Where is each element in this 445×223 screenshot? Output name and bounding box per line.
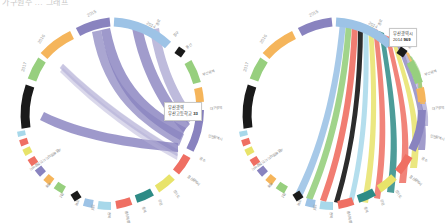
region-label: 충북 (141, 206, 148, 214)
year-label-2015: 2015 (308, 9, 319, 18)
tooltip-left-line2: 부산고등학교 33 (168, 111, 198, 117)
region-label: 충남특별 (124, 210, 131, 223)
region-label: 제주 (44, 181, 52, 190)
tooltip-right-line2: 2014 969 (393, 37, 413, 43)
tooltip-right: 부산광역시 2014 969 (389, 28, 417, 47)
chord-chart-left[interactable]: 2015 2014 2016 2017 종로중구용산부산광역대구광역인천광역시광… (0, 0, 223, 223)
region-label: 강원 (379, 199, 386, 207)
chord-chart-right[interactable]: 2015 2014 2016 2017 종로중구용산부산광역대구광역인천광역시광… (222, 0, 445, 223)
region-label: 중구 (173, 30, 181, 38)
tooltip-left: 부산광역 부산고등학교 33 (164, 102, 202, 121)
region-label: 경남 (58, 191, 66, 200)
region-label: 충북 (363, 206, 370, 214)
region-label: 경기도 (172, 189, 182, 200)
region-label: 광주 (420, 156, 429, 164)
region-label: 울산광역시 (187, 174, 202, 187)
region-label: 인천광역시 (429, 133, 445, 141)
region-label: 부산광역 (424, 68, 437, 77)
region-label: 용산 (185, 42, 194, 50)
year-label-2017: 2017 (20, 61, 28, 72)
region-label: 강원 (157, 199, 164, 207)
region-label: 종로 (377, 18, 384, 26)
year-label-2015: 2015 (86, 9, 97, 18)
region-label: 전북 (329, 212, 334, 219)
region-label: 경남 (280, 191, 288, 200)
chord-diagram-page: 가구원수 ... 그래프 (0, 0, 445, 223)
region-label: 충남특별 (346, 210, 353, 223)
region-label: 울산광역시 (409, 174, 424, 187)
region-label: 대구광역 (432, 105, 444, 110)
region-label: 인천광역시 (207, 133, 223, 141)
year-label-2017: 2017 (242, 61, 250, 72)
region-label: 전북 (107, 212, 112, 219)
region-label: 종로 (155, 18, 162, 26)
ribbons-left (40, 26, 194, 160)
region-label: 대구광역 (210, 105, 222, 110)
region-label: 경기도 (394, 189, 404, 200)
region-label: 제주 (266, 181, 274, 190)
region-label: 광주 (198, 156, 207, 164)
year-label-2016: 2016 (37, 33, 47, 44)
region-label: 부산광역 (202, 68, 215, 77)
year-label-2016: 2016 (259, 33, 269, 44)
